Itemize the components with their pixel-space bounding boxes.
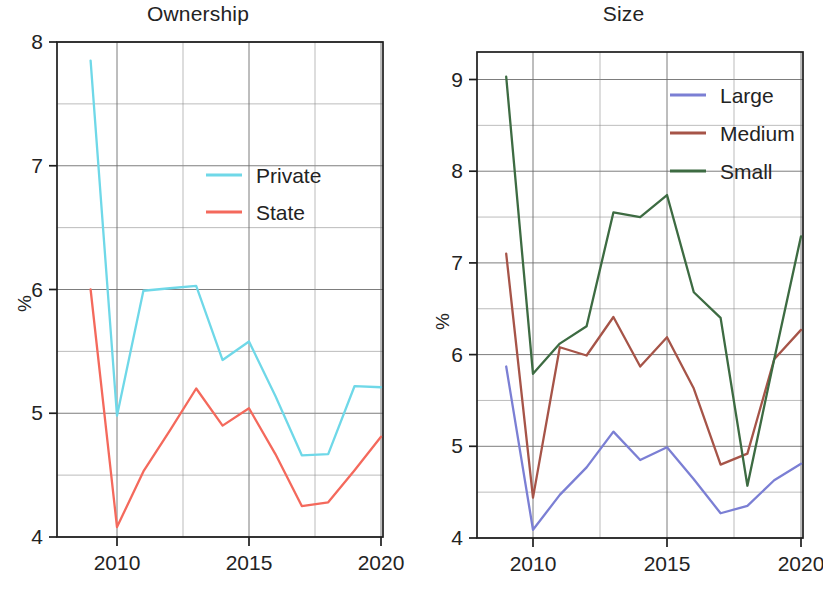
y-tick-label: 6: [451, 343, 463, 366]
y-tick-label: 8: [451, 159, 463, 182]
y-tick-label: 5: [451, 434, 463, 457]
series-line-medium: [506, 254, 801, 498]
y-tick-label: 7: [451, 251, 463, 274]
legend-label-state: State: [256, 201, 305, 224]
y-axis-label: %: [432, 313, 454, 330]
y-tick-label: 9: [451, 68, 463, 91]
chart-panel-ownership: Ownership % 45678201020152020PrivateStat…: [0, 0, 420, 593]
series-line-large: [506, 367, 801, 530]
x-tick-label: 2015: [644, 552, 691, 575]
legend-label-small: Small: [720, 160, 773, 183]
x-tick-label: 2010: [94, 551, 141, 574]
y-tick-label: 4: [31, 525, 43, 548]
x-tick-label: 2020: [358, 551, 405, 574]
ownership-plot: 45678201020152020PrivateState: [0, 0, 420, 593]
legend-label-private: Private: [256, 164, 321, 187]
y-tick-label: 6: [31, 278, 43, 301]
series-line-state: [91, 290, 381, 528]
y-tick-label: 5: [31, 401, 43, 424]
y-tick-label: 7: [31, 154, 43, 177]
size-plot: 456789201020152020LargeMediumSmall: [420, 0, 823, 593]
x-tick-label: 2020: [778, 552, 823, 575]
legend-label-medium: Medium: [720, 122, 795, 145]
chart-panel-size: Size 456789201020152020LargeMediumSmall: [420, 0, 823, 593]
legend-label-large: Large: [720, 84, 774, 107]
figure-root: Ownership % 45678201020152020PrivateStat…: [0, 0, 823, 593]
y-tick-label: 8: [31, 30, 43, 53]
x-tick-label: 2010: [510, 552, 557, 575]
x-tick-label: 2015: [226, 551, 273, 574]
y-tick-label: 4: [451, 526, 463, 549]
series-line-private: [91, 61, 381, 456]
